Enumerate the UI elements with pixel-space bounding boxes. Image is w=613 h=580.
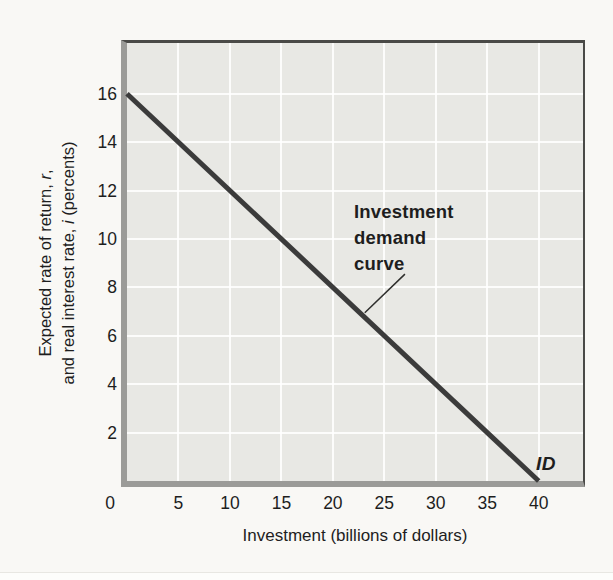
- y-axis-ticks: 246810121416: [0, 43, 117, 481]
- x-tick-label: 15: [272, 492, 291, 514]
- y-tick-label: 10: [0, 228, 117, 250]
- y-tick-label: 14: [0, 131, 117, 153]
- x-tick-label: 35: [478, 492, 497, 514]
- plot-area: Investment demand curve ID: [121, 40, 585, 487]
- x-tick-label: 20: [323, 492, 342, 514]
- y-tick-label: 2: [0, 422, 117, 444]
- y-tick-label: 12: [0, 180, 117, 202]
- x-axis-ticks: 0510152025303540: [127, 492, 583, 516]
- x-tick-label: 40: [529, 492, 548, 514]
- y-tick-label: 8: [0, 276, 117, 298]
- x-tick-label: 5: [174, 492, 184, 514]
- page-edge-strip: [0, 572, 613, 580]
- y-tick-label: 16: [0, 83, 117, 105]
- x-axis-label: Investment (billions of dollars): [127, 526, 583, 546]
- y-tick-label: 6: [0, 325, 117, 347]
- curve-id-label: ID: [536, 453, 556, 475]
- annotation-leader-line: [365, 274, 405, 313]
- y-tick-label: 4: [0, 373, 117, 395]
- x-tick-label: 25: [375, 492, 394, 514]
- investment-demand-figure: Expected rate of return, r, and real int…: [0, 0, 613, 580]
- curve-annotation: Investment demand curve: [354, 199, 454, 277]
- x-tick-label: 30: [426, 492, 445, 514]
- x-tick-label: 10: [220, 492, 239, 514]
- investment-demand-curve: [127, 94, 539, 481]
- x-tick-label: 0: [105, 492, 115, 514]
